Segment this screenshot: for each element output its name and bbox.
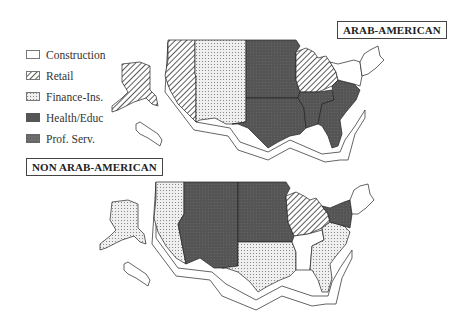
- region-hawaii: [136, 122, 162, 146]
- region-mountain: [195, 40, 246, 124]
- legend-label: Construction: [46, 49, 105, 61]
- legend: Construction Retail Finance-Ins. Health/…: [26, 44, 105, 149]
- legend-item-retail: Retail: [26, 65, 105, 86]
- prof-swatch-icon: [26, 134, 40, 143]
- region-new-england: [360, 46, 384, 76]
- region-east-north-central: [296, 48, 338, 92]
- region-west-north-central: [238, 182, 294, 242]
- map-non-arab-american: [100, 182, 374, 310]
- map-title-non-arab-american: NON ARAB-AMERICAN: [26, 158, 163, 176]
- region-west-north-central: [246, 40, 300, 98]
- retail-swatch-icon: [26, 71, 40, 80]
- map-title-arab-american: ARAB-AMERICAN: [337, 21, 447, 39]
- legend-label: Retail: [46, 70, 73, 82]
- map-arab-american: [112, 40, 384, 162]
- legend-item-prof: Prof. Serv.: [26, 128, 105, 149]
- region-alaska: [100, 200, 146, 250]
- legend-label: Prof. Serv.: [46, 133, 95, 145]
- legend-label: Finance-Ins.: [46, 91, 103, 103]
- finance-swatch-icon: [26, 92, 40, 101]
- legend-label: Health/Educ: [46, 112, 103, 124]
- region-mountain: [178, 182, 238, 268]
- region-hawaii: [124, 262, 150, 286]
- legend-item-health: Health/Educ: [26, 107, 105, 128]
- legend-item-construction: Construction: [26, 44, 105, 65]
- region-new-england: [350, 184, 374, 214]
- legend-item-finance: Finance-Ins.: [26, 86, 105, 107]
- construction-swatch-icon: [26, 50, 40, 59]
- region-alaska: [112, 62, 158, 112]
- health-swatch-icon: [26, 113, 40, 122]
